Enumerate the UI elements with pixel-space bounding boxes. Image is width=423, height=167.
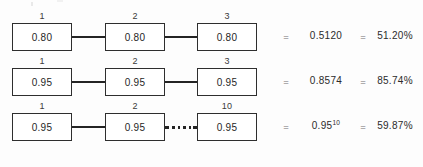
- result-value-base: 0.5120: [310, 30, 342, 41]
- result-value: 0.8574: [298, 75, 354, 86]
- step-index-label: 2: [104, 100, 166, 112]
- result-value-base: 0.8574: [310, 75, 342, 86]
- probability-box: 0.95: [197, 68, 257, 96]
- chain-row: 1 2 3 0.95 0.95 0.95 = 0.8574 = 85.74%: [0, 55, 423, 100]
- step-index-label: 1: [11, 100, 73, 112]
- equals-sign: =: [357, 76, 369, 87]
- equals-sign: =: [280, 31, 292, 42]
- step-index-label: 3: [196, 55, 258, 67]
- connector-dot: [178, 126, 181, 129]
- connector-line: [72, 126, 105, 128]
- probability-box: 0.95: [12, 113, 72, 141]
- step-index-label: 10: [196, 100, 258, 112]
- probability-box: 0.80: [12, 23, 72, 51]
- scan-artifact: [31, 2, 33, 6]
- probability-box: 0.95: [12, 68, 72, 96]
- probability-box: 0.80: [105, 23, 165, 51]
- step-index-label: 1: [11, 55, 73, 67]
- connector-dotted: [165, 126, 197, 129]
- diagram-canvas: 1 2 3 0.80 0.80 0.80 = 0.5120 = 51.20% 1…: [0, 0, 423, 167]
- chain-row: 1 2 3 0.80 0.80 0.80 = 0.5120 = 51.20%: [0, 10, 423, 55]
- connector-line: [165, 81, 197, 83]
- connector-dot: [183, 126, 186, 129]
- step-index-label: 1: [11, 10, 73, 22]
- step-index-label: 3: [196, 10, 258, 22]
- equals-sign: =: [280, 121, 292, 132]
- result-value-exponent: 10: [332, 119, 340, 126]
- result-percent: 59.87%: [370, 120, 420, 131]
- connector-line: [165, 36, 197, 38]
- step-index-label: 2: [104, 10, 166, 22]
- probability-box: 0.95: [105, 68, 165, 96]
- result-percent: 51.20%: [370, 30, 420, 41]
- probability-box: 0.80: [197, 23, 257, 51]
- connector-dot: [189, 126, 192, 129]
- probability-box: 0.95: [105, 113, 165, 141]
- connector-line: [72, 81, 105, 83]
- connector-stub: [165, 126, 169, 128]
- result-value: 0.5120: [298, 30, 354, 41]
- scan-artifact: [57, 0, 63, 2]
- result-value: 0.9510: [298, 120, 354, 131]
- connector-line: [72, 36, 105, 38]
- result-value-base: 0.95: [312, 120, 333, 131]
- equals-sign: =: [357, 31, 369, 42]
- step-index-label: 2: [104, 55, 166, 67]
- equals-sign: =: [357, 121, 369, 132]
- connector-dot: [172, 126, 175, 129]
- chain-row: 1 2 10 0.95 0.95 0.95 = 0.9510 = 59.87%: [0, 100, 423, 145]
- probability-box: 0.95: [197, 113, 257, 141]
- equals-sign: =: [280, 76, 292, 87]
- result-percent: 85.74%: [370, 75, 420, 86]
